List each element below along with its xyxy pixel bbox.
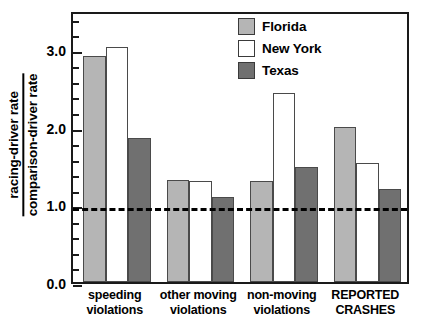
bar bbox=[83, 56, 106, 282]
bar bbox=[189, 181, 212, 282]
y-axis-major-tick bbox=[73, 130, 82, 132]
y-axis-minor-tick bbox=[73, 21, 79, 23]
legend-swatch bbox=[238, 18, 255, 35]
x-axis-category-label: REPORTEDCRASHES bbox=[324, 288, 408, 318]
bar-chart: racing-driver rate comparison-driver rat… bbox=[0, 0, 422, 327]
y-axis-tick-label: 0.0 bbox=[30, 276, 66, 292]
bar bbox=[167, 180, 190, 282]
y-axis-minor-tick bbox=[73, 192, 79, 194]
legend-swatch bbox=[238, 40, 255, 57]
legend-label: Florida bbox=[262, 19, 306, 34]
y-axis-minor-tick bbox=[73, 176, 79, 178]
bar bbox=[250, 181, 273, 282]
y-axis-major-tick bbox=[73, 52, 82, 54]
y-axis-label-fraction-bar bbox=[22, 74, 24, 217]
bar bbox=[334, 127, 357, 282]
x-axis-tick-labels: speedingviolationsother movingviolations… bbox=[71, 286, 409, 327]
legend-item: Texas bbox=[238, 61, 321, 79]
y-axis-minor-tick bbox=[73, 67, 79, 69]
bar bbox=[106, 47, 129, 282]
x-axis-category-label: other movingviolations bbox=[157, 288, 241, 318]
y-axis-minor-tick bbox=[73, 98, 79, 100]
legend-item: New York bbox=[238, 39, 321, 57]
y-axis-minor-tick bbox=[73, 223, 79, 225]
x-axis-category-label: speedingviolations bbox=[73, 288, 157, 318]
y-axis-minor-tick bbox=[73, 36, 79, 38]
bar bbox=[295, 167, 318, 282]
legend-label: New York bbox=[262, 41, 321, 56]
y-axis-minor-tick bbox=[73, 254, 79, 256]
y-axis-tick-label: 2.0 bbox=[30, 121, 66, 137]
x-axis-category-label: non-movingviolations bbox=[240, 288, 324, 318]
bar bbox=[273, 93, 296, 282]
y-axis-minor-tick bbox=[73, 114, 79, 116]
legend-swatch bbox=[238, 62, 255, 79]
y-axis-minor-tick bbox=[73, 83, 79, 85]
bar bbox=[356, 163, 379, 282]
y-axis-minor-tick bbox=[73, 161, 79, 163]
legend-label: Texas bbox=[262, 63, 299, 78]
bar bbox=[379, 189, 402, 282]
legend: FloridaNew YorkTexas bbox=[238, 17, 321, 79]
y-axis-minor-tick bbox=[73, 238, 79, 240]
y-axis-tick-label: 3.0 bbox=[30, 43, 66, 59]
legend-item: Florida bbox=[238, 17, 321, 35]
y-axis-label-numerator: racing-driver rate bbox=[6, 91, 21, 198]
y-axis-tick-labels: 0.01.02.03.0 bbox=[26, 0, 66, 327]
y-axis-minor-tick bbox=[73, 269, 79, 271]
reference-line-at-1 bbox=[73, 208, 407, 211]
y-axis-tick-label: 1.0 bbox=[30, 198, 66, 214]
y-axis-minor-tick bbox=[73, 145, 79, 147]
